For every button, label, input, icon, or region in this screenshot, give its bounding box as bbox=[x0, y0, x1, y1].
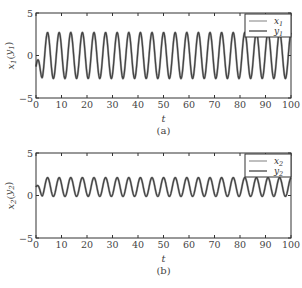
x-tick-label: 80 bbox=[234, 239, 246, 250]
chart-a-svg: 0102030405060708090100−505t(a)x1(y1)x1y1 bbox=[0, 0, 302, 144]
x-tick-label: 10 bbox=[55, 239, 67, 250]
y-tick-label: −5 bbox=[19, 93, 33, 104]
x-tick-label: 0 bbox=[33, 239, 39, 250]
legend: x1y1 bbox=[245, 14, 291, 38]
x-tick-label: 20 bbox=[81, 239, 93, 250]
x-tick-label: 100 bbox=[282, 239, 300, 250]
x-tick-label: 60 bbox=[183, 99, 195, 110]
x-axis-label: t bbox=[161, 113, 166, 124]
chart-panel-b: 0102030405060708090100−505t(b)x2(y2)x2y2 bbox=[0, 140, 302, 284]
x-tick-label: 30 bbox=[106, 99, 118, 110]
y-axis-label: x1(y1) bbox=[3, 41, 18, 69]
x-tick-label: 0 bbox=[33, 99, 39, 110]
chart-panel-a: 0102030405060708090100−505t(a)x1(y1)x1y1 bbox=[0, 0, 302, 144]
x-axis-label: t bbox=[161, 253, 166, 264]
y-axis-label: x2(y2) bbox=[3, 181, 18, 209]
x-tick-label: 70 bbox=[208, 239, 220, 250]
x-tick-label: 90 bbox=[259, 239, 271, 250]
x-tick-label: 20 bbox=[81, 99, 93, 110]
y-tick-label: 5 bbox=[27, 8, 33, 19]
y-tick-label: −5 bbox=[19, 233, 33, 244]
x-tick-label: 50 bbox=[157, 239, 169, 250]
panel-caption: (b) bbox=[156, 265, 170, 276]
x-tick-label: 30 bbox=[106, 239, 118, 250]
x-tick-label: 70 bbox=[208, 99, 220, 110]
x-tick-label: 90 bbox=[259, 99, 271, 110]
chart-b-svg: 0102030405060708090100−505t(b)x2(y2)x2y2 bbox=[0, 140, 302, 288]
x-tick-label: 40 bbox=[132, 99, 144, 110]
x-tick-label: 100 bbox=[282, 99, 300, 110]
x-tick-label: 80 bbox=[234, 99, 246, 110]
x-tick-label: 40 bbox=[132, 239, 144, 250]
y-tick-label: 0 bbox=[27, 50, 33, 61]
x-tick-label: 10 bbox=[55, 99, 67, 110]
x-tick-label: 50 bbox=[157, 99, 169, 110]
panel-caption: (a) bbox=[157, 125, 171, 136]
y-tick-label: 0 bbox=[27, 190, 33, 201]
x-tick-label: 60 bbox=[183, 239, 195, 250]
legend: x2y2 bbox=[245, 154, 291, 178]
y-tick-label: 5 bbox=[27, 148, 33, 159]
